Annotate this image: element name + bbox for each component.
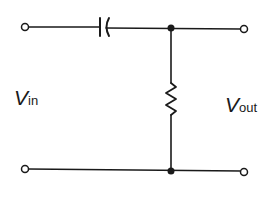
bottom-wire xyxy=(28,169,241,171)
resistor xyxy=(166,83,176,115)
label-vin-sub: in xyxy=(28,93,38,108)
circuit-diagram: Vin Vout xyxy=(0,0,272,204)
terminal-input-top xyxy=(22,24,29,31)
label-vout: Vout xyxy=(225,93,257,117)
terminal-output-bottom xyxy=(241,169,248,176)
capacitor-plate-curved xyxy=(107,18,110,36)
terminal-output-top xyxy=(241,26,248,33)
junction-top xyxy=(168,25,175,32)
junction-bottom xyxy=(168,168,175,175)
label-vin-main: V xyxy=(14,86,28,109)
label-vout-main: V xyxy=(225,93,239,116)
label-vout-sub: out xyxy=(239,100,257,115)
terminal-input-bottom xyxy=(22,166,29,173)
label-vin: Vin xyxy=(14,86,38,110)
